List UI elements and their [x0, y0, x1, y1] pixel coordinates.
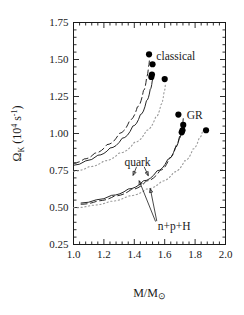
x-tick-label: 2.0: [219, 248, 233, 260]
omega-symbol: Ω: [10, 153, 24, 162]
data-point-marker: [180, 122, 186, 128]
data-point-marker: [175, 111, 181, 117]
figure-panel: 1.01.21.41.61.82.0 0.250.500.751.001.251…: [0, 0, 244, 315]
y-tick-label: 1.25: [49, 90, 69, 102]
x-axis-title-main: M/M: [133, 286, 158, 300]
sun-symbol-icon: ⊙: [158, 291, 166, 301]
y-tick-label: 1.75: [49, 16, 69, 28]
y-axis-title: ΩK (104 s-1): [10, 105, 26, 161]
annotation-GR: GR: [187, 109, 203, 121]
y-tick-label: 1.00: [49, 127, 69, 139]
x-tick-label: 1.2: [97, 248, 111, 260]
curve-dotted-GR: [74, 131, 203, 208]
y-tick-label: 0.50: [49, 201, 69, 213]
y-units-close: ): [10, 105, 24, 109]
scatter-line-plot: 1.01.21.41.61.82.0 0.250.500.751.001.251…: [0, 0, 244, 315]
y-units-s-exponent: -1: [10, 109, 19, 116]
curve-solid-classical: [74, 75, 154, 165]
data-point-marker: [149, 61, 155, 67]
data-point-marker: [162, 76, 168, 82]
x-axis-title: M/M⊙: [133, 286, 166, 301]
annotation-classical: classical: [156, 50, 195, 62]
data-point-markers: [146, 51, 209, 135]
annotation-n-p-H: n+p+H: [158, 220, 191, 233]
data-point-marker: [179, 129, 185, 135]
y-tick-labels: 0.250.500.751.001.251.501.75: [49, 16, 69, 250]
y-tick-label: 1.50: [49, 53, 69, 65]
x-tick-label: 1.6: [158, 248, 172, 260]
annotation-arrow-head: [145, 171, 148, 175]
data-point-marker: [148, 74, 154, 80]
annotation-arrow-head: [133, 171, 136, 175]
y-tick-label: 0.25: [49, 238, 69, 250]
x-tick-label: 1.0: [67, 248, 81, 260]
x-tick-labels: 1.01.21.41.61.82.0: [67, 248, 233, 260]
x-tick-label: 1.4: [127, 248, 141, 260]
y-tick-label: 0.75: [49, 164, 69, 176]
axis-titles: M/M⊙ΩK (104 s-1): [10, 105, 166, 301]
annotation-quark: quark: [124, 156, 150, 169]
data-point-marker: [203, 127, 209, 133]
y-units-open: (10: [10, 128, 24, 147]
data-point-marker: [146, 51, 152, 57]
x-tick-label: 1.8: [188, 248, 202, 260]
